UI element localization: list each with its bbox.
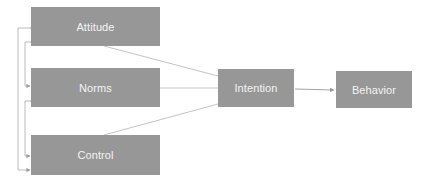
edge-intention-behavior [295,89,334,90]
edge-attitude-control [18,28,30,170]
node-label: Attitude [76,21,114,33]
edge-norms-control [25,101,30,156]
node-label: Behavior [352,84,396,96]
node-intention: Intention [218,69,294,107]
node-label: Norms [79,82,112,94]
edge-attitude-norms [25,42,30,86]
node-label: Intention [234,82,277,94]
node-behavior: Behavior [336,71,412,108]
node-control: Control [31,135,160,175]
node-attitude: Attitude [31,7,160,46]
node-norms: Norms [31,68,160,107]
node-label: Control [77,149,113,161]
edge-control-intention [104,104,218,135]
